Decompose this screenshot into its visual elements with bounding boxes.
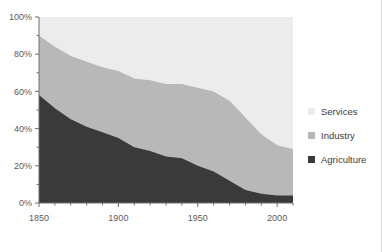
x-axis-ticks	[39, 203, 293, 207]
x-tick-label: 1850	[29, 213, 49, 223]
chart-legend: Services Industry Agriculture	[308, 101, 380, 173]
y-axis-tick-labels: 0%20%40%60%80%100%	[9, 12, 32, 208]
y-tick-label: 80%	[14, 49, 32, 59]
legend-label-services: Services	[321, 106, 357, 117]
legend-swatch-industry	[308, 132, 315, 139]
legend-item-services[interactable]: Services	[308, 101, 380, 121]
x-axis-tick-labels: 1850190019502000	[29, 213, 287, 223]
y-tick-label: 100%	[9, 12, 32, 22]
y-axis-ticks	[35, 17, 39, 203]
legend-item-industry[interactable]: Industry	[308, 125, 380, 145]
area-series-group	[39, 17, 293, 203]
y-tick-label: 40%	[14, 124, 32, 134]
legend-swatch-services	[308, 108, 315, 115]
x-tick-label: 2000	[267, 213, 287, 223]
legend-swatch-agriculture	[308, 156, 315, 163]
legend-label-agriculture: Agriculture	[321, 154, 366, 165]
x-tick-label: 1950	[188, 213, 208, 223]
y-tick-label: 0%	[19, 198, 32, 208]
legend-item-agriculture[interactable]: Agriculture	[308, 149, 380, 169]
legend-label-industry: Industry	[321, 130, 355, 141]
y-tick-label: 20%	[14, 161, 32, 171]
y-tick-label: 60%	[14, 87, 32, 97]
x-tick-label: 1900	[108, 213, 128, 223]
chart-figure: 0%20%40%60%80%100% 1850190019502000 Serv…	[0, 0, 382, 252]
